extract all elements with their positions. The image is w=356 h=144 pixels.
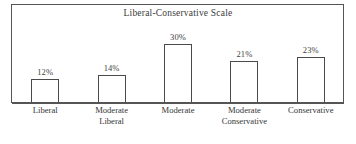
bar-value-label: 30%: [170, 32, 186, 42]
xaxis-label-line2: Liberal: [72, 116, 152, 127]
bar-value-label: 12%: [37, 67, 53, 77]
bar-rect[interactable]: [230, 61, 258, 102]
bar-group: 14%: [78, 4, 144, 102]
bar-group: 12%: [12, 4, 78, 102]
bar-rect[interactable]: [98, 75, 126, 102]
bar-group: 21%: [211, 4, 277, 102]
bar-rect[interactable]: [31, 79, 59, 102]
xaxis-label-conservative: Conservative: [271, 105, 351, 116]
bar-rect[interactable]: [297, 57, 325, 102]
bar-value-label: 23%: [303, 45, 319, 55]
xaxis-label-line1: Moderate: [228, 105, 261, 115]
bar-value-label: 21%: [236, 49, 252, 59]
bar-group: 23%: [278, 4, 344, 102]
axis-baseline: [12, 102, 344, 104]
chart-screenshot: Liberal-Conservative Scale 12% 14% 30% 2…: [0, 0, 356, 144]
xaxis-labels: Liberal Moderate Liberal Moderate Modera…: [12, 105, 344, 143]
bars-layer: 12% 14% 30% 21% 23%: [12, 4, 344, 102]
xaxis-label-line1: Liberal: [33, 105, 58, 115]
bar-rect[interactable]: [164, 44, 192, 103]
bar-value-label: 14%: [104, 63, 120, 73]
xaxis-label-line1: Moderate: [162, 105, 195, 115]
xaxis-label-line1: Moderate: [95, 105, 128, 115]
xaxis-label-line2: Conservative: [204, 116, 284, 127]
xaxis-label-line1: Conservative: [288, 105, 333, 115]
bar-group: 30%: [145, 4, 211, 102]
